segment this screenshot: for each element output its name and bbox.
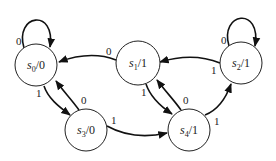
edge-s4-s2: 1	[205, 84, 231, 127]
edge-label: 0	[221, 34, 227, 46]
state-diagram: 0 0 1 0 0 1 1 0 1 1 s0/0	[0, 0, 276, 161]
edge-s3-s4: 1	[107, 114, 167, 136]
svg-text:s2/1: s2/1	[232, 56, 250, 72]
edge-s2-s1: 1	[160, 57, 220, 76]
state-s3: s3/0	[65, 109, 107, 151]
edge-label: 1	[211, 64, 217, 76]
edge-label: 1	[141, 86, 147, 98]
svg-text:s3/0: s3/0	[77, 123, 95, 139]
edge-label: 1	[111, 114, 117, 126]
edge-s1-s4: 1	[141, 84, 172, 114]
svg-text:s1/1: s1/1	[129, 56, 147, 72]
edge-label: 0	[81, 94, 87, 106]
edge-label: 1	[36, 87, 42, 99]
edge-label: 0	[106, 45, 112, 57]
state-s0: s0/0	[15, 44, 57, 86]
svg-text:s0/0: s0/0	[27, 58, 45, 74]
edge-label: 0	[183, 94, 189, 106]
edge-label: 1	[214, 115, 220, 127]
edge-s0-s3: 1	[36, 86, 70, 115]
edge-label: 0	[16, 35, 22, 47]
edge-s3-s0: 0	[56, 81, 87, 110]
svg-text:s4/1: s4/1	[180, 123, 198, 139]
edge-s1-s0: 0	[59, 45, 116, 62]
state-s4: s4/1	[168, 109, 210, 151]
state-s2: s2/1	[220, 42, 262, 84]
state-s1: s1/1	[116, 41, 160, 85]
